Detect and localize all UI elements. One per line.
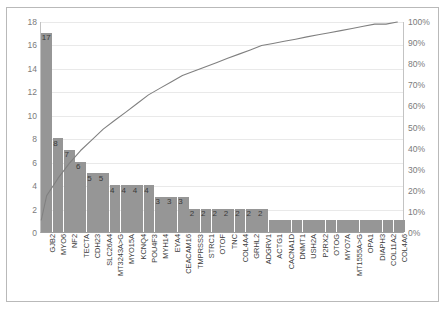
y-axis-tick-label: 2 [32,205,37,214]
bar [269,220,280,232]
bar-column[interactable] [98,21,109,232]
bar-column[interactable] [144,21,155,232]
bar-value-label: 3 [167,198,171,206]
y-axis-tick-label: 0 [32,229,37,238]
bar [326,220,337,232]
x-axis-label: STRC1 [208,234,215,258]
percent-axis-tick-label: 100% [408,18,430,27]
bar [280,220,291,232]
x-axis-label: SLC26A4 [106,234,113,266]
y-axis-tick-label: 8 [32,135,37,144]
bar-column[interactable] [201,21,212,232]
x-axis-label: EYA4 [174,234,181,252]
percent-axis-tick-label: 10% [408,208,425,217]
x-axis-label: TMPRSS3 [197,234,204,269]
plot-area: 024681012141618 0%10%20%30%40%50%60%70%8… [40,22,404,233]
bar-column[interactable] [246,21,257,232]
percent-axis-tick-label: 90% [408,39,425,48]
bar-column[interactable] [41,21,52,232]
bar-column[interactable] [348,21,359,232]
bar-column[interactable] [269,21,280,232]
bar-column[interactable] [64,21,75,232]
bar-column[interactable] [121,21,132,232]
bar [41,33,52,232]
bar-value-label: 5 [87,175,91,183]
bar [348,220,359,232]
bar-value-label: 3 [156,198,160,206]
x-axis-label: DNMT1 [299,234,306,259]
y-axis-tick-label: 16 [28,41,37,50]
percent-axis-tick-label: 0% [408,229,420,238]
percent-axis-tick-label: 50% [408,123,425,132]
bar-column[interactable] [371,21,382,232]
bar-value-label: 6 [76,163,80,171]
bar-value-label: 3 [178,198,182,206]
bar-column[interactable] [360,21,371,232]
bar [292,220,303,232]
bar-value-label: 2 [258,210,262,218]
x-axis-label: TECTA [83,234,90,258]
bar-column[interactable] [383,21,394,232]
bar-column[interactable] [235,21,246,232]
bar-column[interactable] [326,21,337,232]
x-axis-label: GJB2 [49,234,56,252]
bar-value-label: 2 [201,210,205,218]
bar-column[interactable] [132,21,143,232]
bar-column[interactable] [257,21,268,232]
bar-value-label: 8 [53,140,57,148]
bar-value-label: 17 [42,34,51,42]
bar-column[interactable] [189,21,200,232]
bar-column[interactable] [53,21,64,232]
y-axis-tick-label: 14 [28,65,37,74]
percent-axis-tick-label: 70% [408,81,425,90]
x-axis-label: CACNA1D [288,234,295,269]
bar-value-label: 2 [190,210,194,218]
pareto-chart-frame: 024681012141618 0%10%20%30%40%50%60%70%8… [6,7,439,302]
y-axis-tick-label: 4 [32,182,37,191]
x-axis-label: POU4F3 [151,234,158,263]
bar-column[interactable] [314,21,325,232]
x-axis-label: NF2 [71,234,78,248]
bar [64,150,75,232]
x-axis-label: COL4A6 [401,234,408,262]
percent-axis-tick-label: 40% [408,144,425,153]
bar-column[interactable] [87,21,98,232]
percent-axis-tick-label: 80% [408,60,425,69]
x-axis-label: OTOG [333,234,340,256]
x-axis-label: KCNQ4 [140,234,147,259]
x-axis-label: ADGRV1 [265,234,272,264]
x-axis-label: OPA1 [367,234,374,253]
bar-column[interactable] [212,21,223,232]
x-axis-label: TNC [231,234,238,249]
bar [337,220,348,232]
bar-column[interactable] [303,21,314,232]
bar-column[interactable] [75,21,86,232]
x-axis-label: MYH14 [162,234,169,259]
x-axis-label: COL11A2 [390,234,397,266]
percent-axis-tick-label: 20% [408,187,425,196]
x-axis-label: MT1555A>G [356,234,363,276]
x-axis-label: MYO15A [128,234,135,264]
bar-column[interactable] [394,21,405,232]
bar-value-label: 4 [144,187,148,195]
bar [360,220,371,232]
x-axis-label: DIAPH3 [379,234,386,261]
bar-column[interactable] [280,21,291,232]
bar [314,220,325,232]
bar-value-label: 2 [212,210,216,218]
x-axis-label: MYO7A [344,234,351,260]
bar-value-label: 4 [121,187,125,195]
bar-column[interactable] [337,21,348,232]
bar-value-label: 2 [247,210,251,218]
x-axis-label: P2RX2 [322,234,329,257]
x-axis-category-labels: GJB2MYO6NF2TECTACDH23SLC26A4MT3243A>GMYO… [40,234,404,310]
bar [303,220,314,232]
x-axis-label: GRHL2 [253,234,260,259]
bar-column[interactable] [223,21,234,232]
y-axis-tick-label: 10 [28,112,37,121]
bar [383,220,394,232]
bar-value-label: 2 [235,210,239,218]
bar-column[interactable] [292,21,303,232]
bar-column[interactable] [110,21,121,232]
x-axis-label: CDH23 [94,234,101,258]
